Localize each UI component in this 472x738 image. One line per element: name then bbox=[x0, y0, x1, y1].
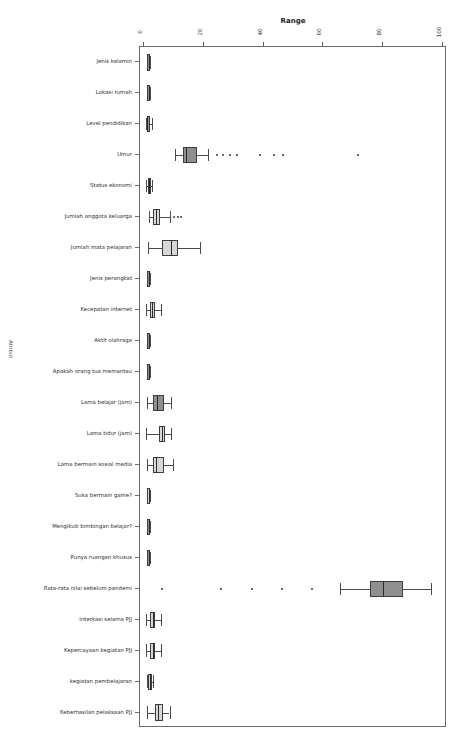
median-line bbox=[157, 395, 158, 411]
median-line bbox=[149, 178, 150, 194]
whisker-high-cap bbox=[171, 428, 172, 440]
whisker-high-cap bbox=[161, 614, 162, 626]
y-tick-label: Jenis perangkat bbox=[90, 275, 132, 281]
y-tick-label: Umur bbox=[117, 151, 132, 157]
whisker-high-cap bbox=[153, 675, 154, 687]
outlier-point bbox=[216, 154, 218, 156]
whisker-low-line bbox=[146, 434, 159, 435]
median-line bbox=[149, 364, 150, 380]
whisker-high-cap bbox=[170, 211, 171, 223]
whisker-high-line bbox=[163, 713, 170, 714]
x-tick-label: 0 bbox=[137, 22, 143, 42]
median-line bbox=[149, 85, 150, 101]
whisker-high-cap bbox=[200, 242, 201, 254]
median-line bbox=[162, 426, 163, 442]
median-line bbox=[149, 488, 150, 504]
outlier-point bbox=[236, 154, 238, 156]
outlier-point bbox=[357, 154, 359, 156]
whisker-high-line bbox=[178, 248, 200, 249]
whisker-low-cap bbox=[146, 614, 147, 626]
median-line bbox=[152, 302, 153, 318]
whisker-low-cap bbox=[147, 706, 148, 718]
y-tick-label: Lama tidur (jam) bbox=[87, 430, 132, 436]
x-axis-title: Range bbox=[139, 17, 447, 25]
x-tick-label: 100 bbox=[436, 22, 442, 42]
whisker-low-cap bbox=[340, 583, 341, 595]
whisker-low-line bbox=[148, 248, 162, 249]
y-axis-title: Atribut bbox=[4, 340, 14, 400]
y-tick-label: Mengikuti bimbingan belajar? bbox=[52, 523, 132, 529]
y-tick-label: Punya ruangan khusus bbox=[71, 554, 132, 560]
whisker-low-line bbox=[340, 589, 371, 590]
median-line bbox=[153, 643, 154, 659]
outlier-point bbox=[220, 588, 222, 590]
y-tick-label: Lama bermain sosial media bbox=[58, 461, 132, 467]
x-tick-label: 60 bbox=[316, 22, 322, 42]
median-line bbox=[147, 116, 148, 132]
outlier-point bbox=[281, 588, 283, 590]
whisker-low-line bbox=[147, 713, 155, 714]
median-line bbox=[186, 147, 187, 163]
whisker-low-cap bbox=[175, 149, 176, 161]
y-tick-label: Jenis kelamin bbox=[96, 58, 132, 64]
whisker-low-cap bbox=[147, 397, 148, 409]
median-line bbox=[149, 550, 150, 566]
whisker-high-cap bbox=[161, 644, 162, 656]
whisker-high-cap bbox=[150, 490, 151, 502]
outlier-point bbox=[259, 154, 261, 156]
y-tick-label: Aktif olahraga bbox=[94, 337, 132, 343]
y-tick-label: Level pendidikan bbox=[86, 120, 132, 126]
whisker-high-cap bbox=[150, 56, 151, 68]
outlier-point bbox=[311, 588, 313, 590]
whisker-high-cap bbox=[150, 87, 151, 99]
median-line bbox=[149, 519, 150, 535]
box-iqr bbox=[162, 240, 177, 256]
whisker-high-line bbox=[403, 589, 430, 590]
whisker-high-cap bbox=[152, 118, 153, 130]
outlier-point bbox=[222, 154, 224, 156]
y-tick-label: Suka bermain game? bbox=[75, 492, 132, 498]
y-tick-label: Status ekonomi bbox=[90, 182, 132, 188]
median-line bbox=[383, 581, 384, 597]
whisker-low-line bbox=[175, 155, 183, 156]
median-line bbox=[158, 704, 159, 720]
median-line bbox=[156, 209, 157, 225]
boxplot-series bbox=[140, 47, 445, 726]
whisker-low-cap bbox=[146, 304, 147, 316]
whisker-high-cap bbox=[170, 706, 171, 718]
median-line bbox=[171, 240, 172, 256]
whisker-high-cap bbox=[161, 304, 162, 316]
y-tick-label: Jumlah mata pelajaran bbox=[71, 244, 132, 250]
whisker-high-cap bbox=[150, 335, 151, 347]
whisker-high-cap bbox=[208, 149, 209, 161]
y-tick-label: Rata-rata nilai sebelum pandemi bbox=[44, 585, 132, 591]
median-line bbox=[149, 333, 150, 349]
whisker-low-cap bbox=[146, 428, 147, 440]
whisker-high-cap bbox=[150, 552, 151, 564]
outlier-point bbox=[173, 216, 175, 218]
whisker-high-line bbox=[164, 403, 172, 404]
outlier-point bbox=[229, 154, 231, 156]
whisker-high-line bbox=[197, 155, 208, 156]
whisker-low-cap bbox=[147, 459, 148, 471]
x-tick-label: 40 bbox=[257, 22, 263, 42]
whisker-high-cap bbox=[150, 366, 151, 378]
whisker-low-cap bbox=[149, 211, 150, 223]
plot-area bbox=[139, 46, 446, 727]
whisker-high-cap bbox=[150, 273, 151, 285]
box-iqr bbox=[183, 147, 197, 163]
box-iqr bbox=[153, 457, 163, 473]
y-tick-label: Kepercayaan kegiatan PJJ bbox=[64, 647, 132, 653]
whisker-high-line bbox=[164, 465, 174, 466]
y-tick-label: Lama belajar (jam) bbox=[81, 399, 132, 405]
whisker-high-cap bbox=[152, 180, 153, 192]
whisker-high-line bbox=[160, 217, 170, 218]
median-line bbox=[153, 612, 154, 628]
y-tick-label: Lokasi rumah bbox=[96, 89, 132, 95]
y-tick-label: Interkasi selama PJJ bbox=[79, 616, 132, 622]
median-line bbox=[149, 271, 150, 287]
whisker-high-cap bbox=[173, 459, 174, 471]
outlier-point bbox=[273, 154, 275, 156]
y-tick-label: Kecepatan internet bbox=[81, 306, 132, 312]
median-line bbox=[156, 457, 157, 473]
